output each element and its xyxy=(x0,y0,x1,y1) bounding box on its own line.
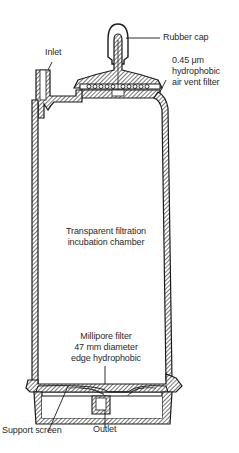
label-air-vent-filter-line-1: 0.45 μm xyxy=(172,55,220,66)
label-millipore-line-2: 47 mm diameter xyxy=(60,342,152,353)
inlet-tube xyxy=(36,70,82,118)
label-air-vent-filter-line-3: air vent filter xyxy=(172,77,220,88)
label-millipore-line-1: Millipore filter xyxy=(60,331,152,342)
label-air-vent-filter: 0.45 μm hydrophobic air vent filter xyxy=(172,55,220,88)
filter-base xyxy=(26,374,182,424)
label-chamber-line-2: incubation chamber xyxy=(56,237,156,248)
label-inlet: Inlet xyxy=(45,47,62,58)
label-chamber: Transparent filtration incubation chambe… xyxy=(56,226,156,248)
label-millipore-line-3: edge hydrophobic xyxy=(60,353,152,364)
label-outlet: Outlet xyxy=(93,424,116,435)
label-air-vent-filter-line-2: hydrophobic xyxy=(172,66,220,77)
label-chamber-line-1: Transparent filtration xyxy=(56,226,156,237)
label-rubber-cap: Rubber cap xyxy=(163,32,209,43)
label-millipore-filter: Millipore filter 47 mm diameter edge hyd… xyxy=(60,331,152,364)
label-support-screen: Support screen xyxy=(2,425,62,436)
vent-housing xyxy=(74,34,162,98)
